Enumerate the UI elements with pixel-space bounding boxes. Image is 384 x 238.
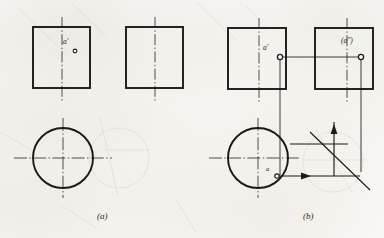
panel-b-label-a: a [266, 166, 269, 173]
panel-b-group [209, 18, 373, 198]
caption-b: (b) [303, 212, 314, 221]
panel-a-point-a-prime-marker [73, 49, 77, 53]
panel-b-vertical-arrowhead [331, 124, 338, 134]
panel-b-label-a-double-prime: (a″) [341, 37, 353, 45]
panel-b-point-a-double-prime-marker [358, 54, 363, 59]
figure-canvas: a′ a′ (a″) a (a) (b) [0, 0, 384, 238]
panel-a-label-a-prime: a′ [63, 38, 68, 46]
panel-b-horizontal-arrowhead [301, 173, 311, 180]
panel-b-point-a-prime-marker [277, 54, 282, 59]
caption-a: (a) [97, 212, 108, 221]
panel-b-label-a-prime: a′ [263, 44, 268, 52]
panel-b-point-a-marker [275, 174, 279, 178]
panel-a-front-view-square [33, 27, 90, 88]
drawing-ink-layer [0, 0, 384, 238]
panel-a-side-view-square [126, 27, 183, 88]
panel-a-group [14, 17, 183, 198]
